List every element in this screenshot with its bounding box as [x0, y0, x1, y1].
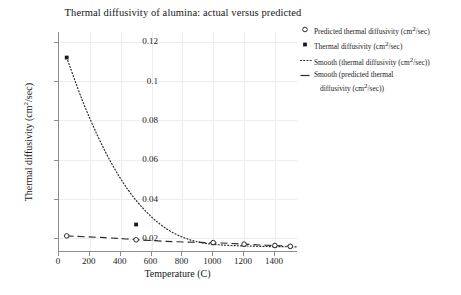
y-tick-label: 0.1	[118, 77, 158, 86]
data-point-predicted	[242, 242, 247, 247]
x-axis-title-text: Temperature (C)	[144, 268, 210, 279]
legend-label: Smooth (predicted thermal	[314, 70, 458, 80]
legend-label: Smooth (thermal diffusivity (cm2/sec))	[314, 55, 458, 69]
x-tick-mark	[120, 252, 121, 256]
legend-marker-filled-square	[300, 39, 313, 49]
y-tick-mark	[54, 160, 58, 161]
chart-legend: Predicted thermal diffusivity (cm2/sec)T…	[300, 24, 458, 96]
x-tick-mark	[243, 252, 244, 256]
y-tick-mark	[54, 238, 58, 239]
legend-marker-dashed-line	[300, 70, 313, 80]
legend-item[interactable]: Smooth (thermal diffusivity (cm2/sec))	[300, 55, 458, 69]
x-tick-mark	[212, 252, 213, 256]
data-point-predicted	[273, 243, 278, 248]
legend-item[interactable]: Predicted thermal diffusivity (cm2/sec)	[300, 24, 458, 38]
x-tick-mark	[151, 252, 152, 256]
chart-title: Thermal diffusivity of alumina: actual v…	[58, 7, 308, 18]
data-point-actual	[134, 223, 138, 227]
data-series-layer	[59, 32, 298, 252]
y-tick-mark	[54, 42, 58, 43]
y-tick-mark	[54, 120, 58, 121]
x-tick-label: 1400	[254, 256, 294, 266]
y-axis-title-superscript: 2	[22, 102, 30, 106]
legend-label-line2: diffusivity (cm2/sec))	[320, 81, 458, 95]
x-tick-mark	[181, 252, 182, 256]
legend-label: Thermal diffusivity (cm2/sec)	[314, 39, 458, 53]
legend-item[interactable]: Smooth (predicted thermal	[300, 70, 458, 80]
y-tick-mark	[54, 199, 58, 200]
data-point-predicted	[64, 234, 69, 239]
y-tick-label: 0.02	[118, 234, 158, 243]
legend-marker-open-circle	[300, 24, 313, 34]
legend-item-continuation: diffusivity (cm2/sec))	[300, 81, 458, 95]
legend-label: Predicted thermal diffusivity (cm2/sec)	[314, 24, 458, 38]
series-line-actual-smooth	[67, 58, 298, 247]
y-axis-title-base: Thermal diffusivity (cm	[23, 105, 34, 201]
y-tick-label: 0.12	[118, 37, 158, 46]
x-axis-title: Temperature (C)	[58, 268, 297, 279]
legend-marker-dotted-line	[300, 55, 313, 65]
y-tick-label: 0.04	[118, 195, 158, 204]
chart-root: Thermal diffusivity of alumina: actual v…	[0, 0, 461, 295]
series-line-predicted-smooth	[67, 236, 291, 246]
data-point-actual	[65, 56, 69, 60]
y-axis-title-tail: /sec)	[23, 83, 34, 102]
legend-item[interactable]: Thermal diffusivity (cm2/sec)	[300, 39, 458, 53]
x-tick-mark	[89, 252, 90, 256]
plot-area	[58, 32, 297, 252]
x-tick-mark	[274, 252, 275, 256]
y-tick-mark	[54, 81, 58, 82]
data-point-predicted	[288, 244, 293, 249]
y-axis-title: Thermal diffusivity (cm2/sec)	[22, 22, 34, 262]
data-point-predicted	[211, 240, 216, 245]
y-tick-label: 0.08	[118, 116, 158, 125]
y-tick-label: 0.06	[118, 155, 158, 164]
x-tick-mark	[58, 252, 59, 256]
